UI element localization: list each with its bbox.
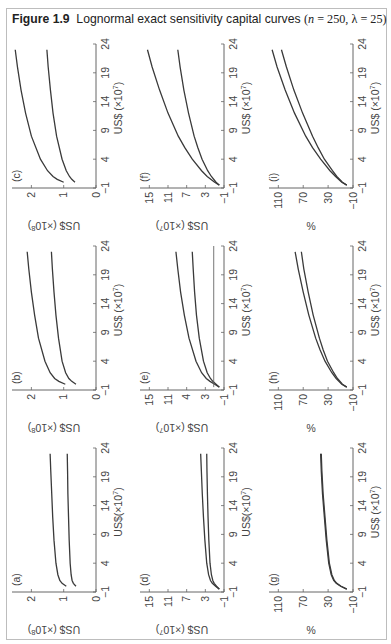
y-tick-label: 0 bbox=[90, 394, 102, 400]
panel-label: (c) bbox=[10, 170, 22, 182]
y-axis-label: US$ (×107) bbox=[156, 624, 208, 637]
chart-panel-b: −149141924012US$ (×107)US$ (×108)(b) bbox=[4, 236, 132, 436]
x-axis-label: US$ (×107) bbox=[111, 82, 124, 134]
x-axis-label: US$ (×107) bbox=[368, 486, 381, 538]
x-tick-label: 19 bbox=[99, 67, 111, 79]
curve-lower bbox=[301, 252, 346, 387]
chart-panel-d: −149141924−1371115US$(×107)US$ (×107)(d) bbox=[132, 438, 260, 638]
panel-label: (b) bbox=[10, 371, 22, 384]
x-tick-label: 24 bbox=[356, 442, 368, 454]
x-tick-label: 9 bbox=[99, 127, 111, 133]
x-tick-label: 14 bbox=[99, 298, 111, 310]
figure-title-text: Lognormal exact sensitivity capital curv… bbox=[76, 12, 300, 26]
x-tick-label: 4 bbox=[356, 358, 368, 364]
y-tick-label: 0 bbox=[90, 596, 102, 602]
panel-label: (i) bbox=[267, 173, 279, 182]
x-tick-label: 4 bbox=[99, 560, 111, 566]
curve-lower bbox=[178, 50, 220, 185]
y-tick-label: 110 bbox=[272, 192, 284, 209]
y-tick-label: 7 bbox=[180, 192, 192, 198]
x-tick-label: 4 bbox=[227, 358, 239, 364]
figure-title: Figure 1.9 Lognormal exact sensitivity c… bbox=[12, 12, 387, 27]
x-axis-label: US$ (×107) bbox=[239, 284, 252, 336]
x-tick-label: 14 bbox=[227, 96, 239, 108]
curve-upper bbox=[27, 252, 65, 384]
x-axis-label: US$ (×107) bbox=[239, 82, 252, 134]
y-tick-label: 2 bbox=[25, 394, 37, 400]
y-tick-label: 0 bbox=[90, 192, 102, 198]
x-tick-label: 9 bbox=[227, 329, 239, 335]
y-tick-label: −10 bbox=[347, 192, 359, 210]
x-axis-label: US$ (×107) bbox=[368, 82, 381, 134]
x-tick-label: 24 bbox=[356, 38, 368, 50]
x-tick-label: 14 bbox=[99, 500, 111, 512]
panel-label: (e) bbox=[138, 371, 150, 384]
x-tick-label: 19 bbox=[227, 269, 239, 281]
x-tick-label: 24 bbox=[227, 38, 239, 50]
y-tick-label: −10 bbox=[347, 394, 359, 412]
y-axis-label: % bbox=[306, 220, 315, 232]
y-tick-label: 1 bbox=[57, 192, 69, 198]
y-tick-label: 30 bbox=[322, 394, 334, 406]
x-tick-label: 19 bbox=[99, 269, 111, 281]
curve-upper bbox=[50, 454, 66, 586]
y-tick-label: 7 bbox=[180, 596, 192, 602]
x-tick-label: 19 bbox=[99, 471, 111, 483]
curve-upper bbox=[147, 50, 219, 185]
x-tick-label: 24 bbox=[227, 442, 239, 454]
y-tick-label: 30 bbox=[322, 192, 334, 204]
curve-upper bbox=[15, 50, 63, 182]
curve-lower bbox=[207, 454, 220, 589]
y-axis-label: US$ (×107) bbox=[156, 220, 208, 233]
panel-label: (h) bbox=[267, 371, 279, 384]
y-tick-label: 2 bbox=[25, 192, 37, 198]
x-tick-label: 9 bbox=[99, 531, 111, 537]
x-tick-label: 24 bbox=[99, 442, 111, 454]
panel-label: (a) bbox=[10, 573, 22, 586]
y-axis-label: % bbox=[306, 422, 315, 434]
y-tick-label: 4 bbox=[180, 394, 192, 400]
panel-label: (g) bbox=[267, 573, 279, 586]
curve-lower bbox=[281, 50, 346, 185]
y-tick-label: 11 bbox=[162, 394, 174, 405]
chart-panel-g: −149141924−103070110US$ (×107)%(g) bbox=[261, 438, 389, 638]
panel-label: (d) bbox=[138, 573, 150, 586]
y-tick-label: 70 bbox=[297, 394, 309, 406]
x-tick-label: 24 bbox=[356, 240, 368, 252]
x-tick-label: 9 bbox=[356, 127, 368, 133]
x-tick-label: 19 bbox=[356, 471, 368, 483]
curve-upper bbox=[295, 252, 347, 387]
chart-panel-h: −149141924−103070110US$ (×107)%(h) bbox=[261, 236, 389, 436]
y-tick-label: −1 bbox=[218, 192, 230, 204]
x-axis-label: US$(×107) bbox=[111, 487, 124, 536]
y-tick-label: 1 bbox=[57, 394, 69, 400]
x-tick-label: 9 bbox=[227, 127, 239, 133]
curve-upper bbox=[272, 50, 347, 185]
y-tick-label: 110 bbox=[272, 596, 284, 613]
y-tick-label: 3 bbox=[199, 394, 211, 400]
y-tick-label: −10 bbox=[347, 596, 359, 614]
y-tick-label: 1 bbox=[57, 596, 69, 602]
y-tick-label: 15 bbox=[143, 394, 155, 406]
x-tick-label: 14 bbox=[227, 500, 239, 512]
y-tick-label: −1 bbox=[218, 596, 230, 608]
chart-panel-a: −149141924012US$(×107)US$ (×108)(a) bbox=[4, 438, 132, 638]
y-tick-label: 3 bbox=[199, 596, 211, 602]
x-tick-label: 14 bbox=[356, 96, 368, 108]
x-tick-label: 24 bbox=[227, 240, 239, 252]
y-tick-label: 11 bbox=[162, 596, 174, 607]
chart-panel-e: −149141924−1341115US$ (×107)US$ (×107)(e… bbox=[132, 236, 260, 436]
y-tick-label: 3 bbox=[199, 192, 211, 198]
curve-lower bbox=[321, 454, 347, 589]
y-tick-label: −1 bbox=[218, 394, 230, 406]
x-tick-label: 24 bbox=[99, 38, 111, 50]
x-tick-label: 4 bbox=[356, 560, 368, 566]
x-tick-label: 24 bbox=[99, 240, 111, 252]
x-tick-label: 4 bbox=[356, 156, 368, 162]
x-tick-label: 14 bbox=[99, 96, 111, 108]
x-axis-label: US$(×107) bbox=[239, 487, 252, 536]
curve-lower bbox=[67, 454, 76, 586]
x-axis-label: US$ (×107) bbox=[368, 284, 381, 336]
curve-lower bbox=[192, 252, 219, 387]
x-tick-label: 9 bbox=[99, 329, 111, 335]
